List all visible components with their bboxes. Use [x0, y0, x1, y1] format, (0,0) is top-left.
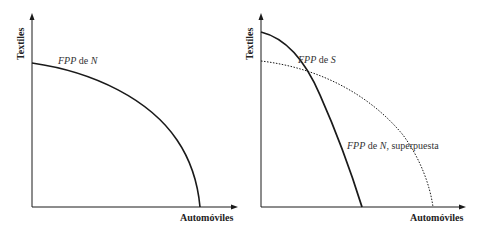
- ppf-diagram: Textiles Automóviles FPP de N Textiles A…: [0, 0, 486, 231]
- right-ppf-s-label: FPP de S: [297, 54, 336, 65]
- right-x-axis-label: Automóviles: [410, 212, 463, 223]
- right-ppf-n-superimposed-curve: [261, 61, 433, 207]
- left-ppf-n-label: FPP de N: [57, 55, 99, 66]
- left-panel: Textiles Automóviles FPP de N: [15, 16, 235, 223]
- right-ppf-n-superimposed-label: FPP de N, superpuesta: [346, 140, 439, 151]
- right-y-axis-label: Textiles: [244, 27, 255, 60]
- left-ppf-n-curve: [32, 63, 200, 207]
- right-panel: Textiles Automóviles FPP de S FPP de N, …: [244, 16, 463, 223]
- left-x-axis-label: Automóviles: [180, 212, 233, 223]
- left-y-axis-label: Textiles: [15, 27, 26, 60]
